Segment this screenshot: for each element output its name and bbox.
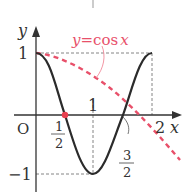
x-axis-label: x bbox=[170, 118, 179, 137]
svg-text:2: 2 bbox=[55, 136, 63, 151]
svg-text:1: 1 bbox=[55, 119, 63, 134]
y-tick-1: 1 bbox=[18, 44, 28, 63]
zero-point-marker bbox=[62, 112, 68, 118]
curve-label-leader bbox=[96, 46, 104, 78]
x-tick-1: 1 bbox=[88, 96, 98, 115]
curve-label: y=cosx bbox=[71, 31, 129, 49]
origin-label: O bbox=[17, 120, 29, 138]
y-axis-label: y bbox=[17, 21, 28, 40]
y-axis-arrow-icon bbox=[32, 26, 40, 37]
svg-text:2: 2 bbox=[123, 165, 131, 180]
x-tick-2: 2 bbox=[155, 118, 165, 137]
chart-canvas: y x O 1 −1 1 2 1 2 3 2 y=cosx bbox=[0, 0, 189, 195]
svg-text:3: 3 bbox=[123, 148, 131, 163]
x-tick-three-half: 3 2 bbox=[119, 148, 134, 180]
three-half-leader bbox=[123, 117, 129, 134]
x-tick-half: 1 2 bbox=[51, 119, 65, 151]
y-tick-neg1: −1 bbox=[8, 165, 32, 184]
